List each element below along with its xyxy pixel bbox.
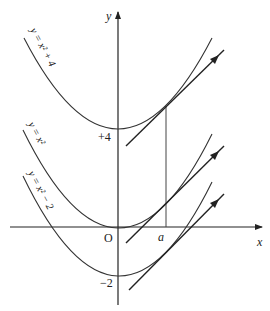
tangent-top xyxy=(126,50,224,146)
tick-minus-two: −2 xyxy=(100,276,113,290)
tick-a: a xyxy=(158,230,164,244)
tangent-middle xyxy=(126,146,224,243)
y-axis-label: y xyxy=(105,9,112,23)
curve-label-x2-plus-4: y = x² + 4 xyxy=(28,25,58,69)
tick-plus-four: +4 xyxy=(98,130,111,144)
tangent-bottom xyxy=(129,194,224,290)
x-axis-label: x xyxy=(256,235,263,249)
parabola-tangent-diagram: y x O +4 −2 a y = x² + 4 y = x² y = x² −… xyxy=(0,0,270,311)
curve-label-x2: y = x² xyxy=(26,119,48,148)
origin-label: O xyxy=(104,231,113,245)
